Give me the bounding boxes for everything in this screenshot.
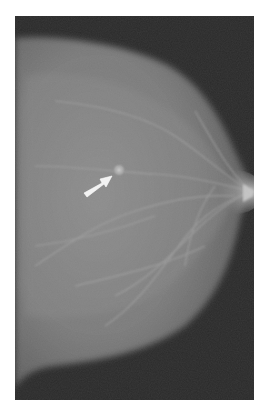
mammogram-svg <box>15 16 254 400</box>
mammogram-image <box>15 16 254 400</box>
page: mammogram <box>0 0 265 420</box>
film-grain <box>15 16 254 400</box>
